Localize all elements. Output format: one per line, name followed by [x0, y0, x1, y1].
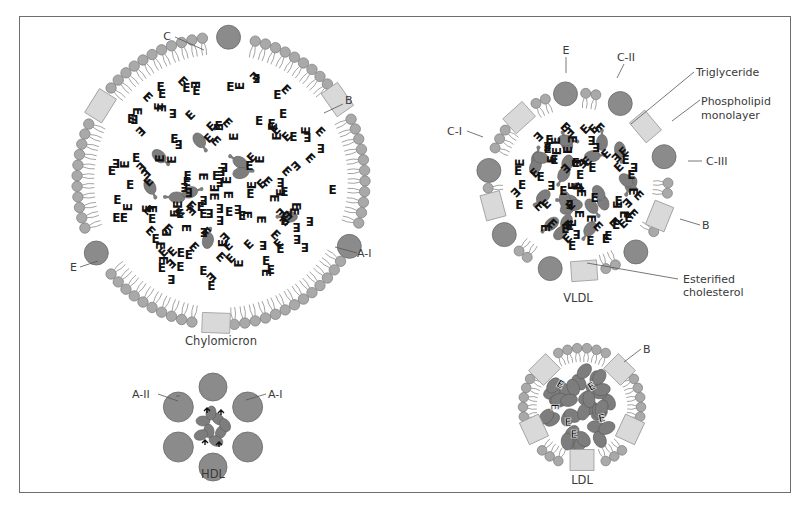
- hdl-title: HDL: [201, 467, 226, 481]
- triglyceride-icon: E: [591, 191, 599, 205]
- triglyceride-icon: E: [317, 141, 325, 155]
- label-vldl-esterified-2: cholesterol: [683, 286, 743, 299]
- phospholipid-head: [633, 383, 643, 393]
- label-chylo-c: C: [163, 30, 171, 43]
- phospholipid-head: [591, 90, 601, 100]
- phospholipid-head: [74, 202, 84, 212]
- triglyceride-icon: E: [227, 133, 241, 141]
- triglyceride-icon: E: [220, 160, 228, 174]
- triglyceride-icon: E: [216, 213, 224, 227]
- phospholipid-head: [358, 155, 368, 165]
- phospholipid-head: [531, 98, 541, 108]
- lipoprotein-diagram: EEEEEEEEEEEEEEEEEEEEEEEEEEEEEEEEEEEEEEEE…: [0, 0, 804, 508]
- phospholipid-head: [80, 129, 90, 139]
- triglyceride-icon: E: [592, 140, 600, 154]
- triglyceride-icon: E: [259, 269, 273, 277]
- phospholipid-head: [229, 319, 239, 329]
- triglyceride-icon: E: [207, 279, 215, 293]
- triglyceride-icon: E: [183, 175, 191, 189]
- triglyceride-icon: E: [576, 168, 584, 182]
- triglyceride-icon: E: [221, 191, 235, 199]
- phospholipid-head: [260, 313, 270, 323]
- phospholipid-head: [601, 348, 611, 358]
- triglyceride-icon: E: [108, 164, 116, 178]
- phospholipid-head: [156, 307, 166, 317]
- apoprotein-sphere: [199, 373, 227, 401]
- phospholipid-head: [540, 94, 550, 104]
- triglyceride-icon: E: [254, 215, 268, 223]
- phospholipid-head: [270, 309, 280, 319]
- phospholipid-head: [490, 143, 500, 153]
- phospholipid-head: [80, 223, 90, 233]
- phospholipid-head: [166, 311, 176, 321]
- phospholipid-head: [663, 178, 673, 188]
- apoprotein-sphere: [608, 92, 632, 116]
- triglyceride-icon: E: [627, 168, 635, 182]
- phospholipid-head: [601, 456, 611, 466]
- phospholipid-head: [138, 297, 148, 307]
- apoprotein-sphere: [624, 240, 648, 264]
- phospholipid-head: [72, 170, 82, 180]
- phospholipid-head: [147, 302, 157, 312]
- apoprotein-sphere: [163, 392, 193, 422]
- apoprotein-b-block: [570, 260, 597, 282]
- triglyceride-icon: E: [200, 225, 208, 239]
- phospholipid-head: [592, 345, 602, 355]
- phospholipid-head: [147, 49, 157, 59]
- phospholipid-head: [260, 39, 270, 49]
- ldl-particle: EEEEEE: [518, 343, 646, 471]
- apoprotein-sphere: [163, 432, 193, 462]
- phospholipid-head: [519, 392, 529, 402]
- triglyceride-icon: E: [176, 260, 184, 274]
- label-vldl-esterified-1: Esterified: [683, 273, 735, 286]
- triglyceride-icon: E: [293, 232, 301, 246]
- label-ldl-b: B: [643, 343, 651, 356]
- hdl-particle: [163, 373, 262, 481]
- triglyceride-icon: E: [220, 176, 234, 184]
- triglyceride-icon: E: [253, 155, 267, 163]
- triglyceride-icon: E: [158, 261, 166, 275]
- triglyceride-icon: E: [167, 272, 175, 286]
- phospholipid-head: [77, 213, 87, 223]
- label-chylo-a1: A-I: [357, 247, 372, 260]
- triglyceride-icon: E: [207, 192, 221, 200]
- triglyceride-icon: E: [549, 137, 563, 145]
- apoprotein-b-block: [570, 450, 594, 471]
- phospholipid-head: [156, 45, 166, 55]
- label-chylo-b: B: [345, 94, 353, 107]
- phospholipid-head: [554, 348, 564, 358]
- phospholipid-head: [250, 36, 260, 46]
- phospholipid-head: [73, 160, 83, 170]
- apoprotein-sphere: [652, 145, 676, 169]
- triglyceride-icon: E: [225, 205, 233, 219]
- triglyceride-icon: E: [176, 207, 184, 221]
- phospholipid-head: [289, 300, 299, 310]
- triglyceride-icon: E: [566, 182, 580, 190]
- phospholipid-head: [636, 402, 646, 412]
- phospholipid-head: [609, 452, 619, 462]
- triglyceride-icon: E: [513, 159, 527, 167]
- triglyceride-icon: E: [192, 84, 200, 98]
- phospholipid-head: [280, 305, 290, 315]
- triglyceride-icon: E: [196, 173, 210, 181]
- triglyceride-icon: E: [267, 117, 275, 131]
- triglyceride-icon: E: [259, 238, 267, 252]
- phospholipid-head: [354, 218, 364, 228]
- phospholipid-head: [106, 269, 116, 279]
- triglyceride-icon: E: [547, 178, 555, 192]
- phospholipid-head: [514, 246, 524, 256]
- triglyceride-icon: E: [548, 403, 561, 411]
- phospholipid-head: [662, 188, 672, 198]
- phospholipid-head: [572, 343, 582, 353]
- label-vldl-c3: C-III: [706, 155, 727, 168]
- phospholipid-head: [72, 181, 82, 191]
- ldl-title: LDL: [571, 473, 593, 487]
- phospholipid-head: [298, 294, 308, 304]
- triglyceride-icon: E: [148, 212, 156, 226]
- label-chylo-e: E: [70, 261, 77, 274]
- apoprotein-sphere: [233, 432, 263, 462]
- triglyceride-icon: E: [267, 194, 281, 202]
- triglyceride-icon: E: [279, 107, 287, 121]
- triglyceride-icon: E: [233, 82, 247, 90]
- label-vldl-c1: C-I: [447, 125, 462, 138]
